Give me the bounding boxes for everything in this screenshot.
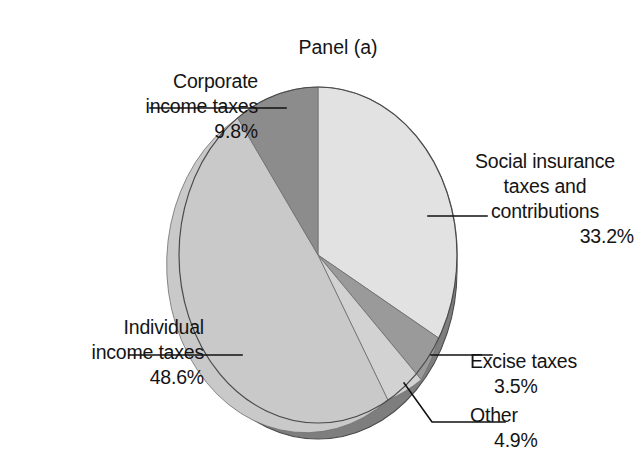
slice-label-individual: Individual income taxes 48.6%: [8, 290, 204, 415]
slice-label-corporate-name: Corporate income taxes: [146, 70, 259, 117]
slice-label-social-insurance-pct: 33.2%: [452, 224, 638, 249]
slice-label-social-insurance: Social insurance taxes and contributions…: [452, 124, 638, 274]
slice-label-other-name: Other: [470, 404, 518, 426]
slice-label-individual-name: Individual income taxes: [92, 316, 205, 363]
slice-label-excise-name: Excise taxes: [470, 350, 577, 372]
slice-label-individual-pct: 48.6%: [8, 365, 204, 390]
page-title: Panel (a): [248, 36, 428, 59]
slice-label-other-pct: 4.9%: [470, 428, 638, 453]
slice-label-other: Other 4.9%: [470, 378, 638, 473]
slice-label-corporate: Corporate income taxes 9.8%: [28, 44, 258, 169]
chart-canvas: Panel (a) Corporate income taxes 9.8% So…: [0, 0, 638, 473]
slice-label-social-insurance-name: Social insurance taxes and contributions: [475, 150, 615, 222]
slice-label-corporate-pct: 9.8%: [28, 119, 258, 144]
